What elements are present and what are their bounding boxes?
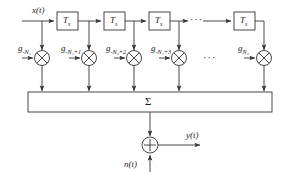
coef-1-sub: -N₁ (23, 48, 31, 55)
block-diagram: x(t) Ts Ts Ts Ts g-N₁ g-N₁+1 g-N₁+2 g-N₁… (0, 0, 285, 176)
coef-3-sub: -N₁+2 (111, 48, 127, 55)
noise-label: n(t) (124, 160, 137, 169)
coef-2-sub: -N₁+1 (66, 48, 82, 55)
summation-symbol: Σ (145, 96, 151, 107)
delay-3-sub: s (160, 21, 162, 27)
coefficient-label-2: g-N₁+1 (61, 44, 81, 55)
delay-block-1-label: Ts (63, 16, 70, 27)
coefficient-label-1: g-N₁ (18, 44, 31, 55)
delay-block-3-label: Ts (155, 16, 162, 27)
delay-2-sub: s (115, 21, 117, 27)
coefficient-label-4: g-N₁+3 (151, 44, 171, 55)
input-label: x(t) (32, 6, 45, 15)
coef-4-sub: -N₁+3 (156, 48, 172, 55)
ellipsis-multiplier-row: ··· (203, 52, 217, 63)
coefficient-label-3: g-N₁+2 (106, 44, 126, 55)
ellipsis-top-row: ··· (190, 14, 204, 25)
delay-1-sub: s (68, 21, 70, 27)
delay-block-2-label: Ts (110, 16, 117, 27)
coefficient-label-5: gN₂ (238, 44, 249, 55)
delay-4-sub: s (245, 21, 247, 27)
output-label: y(t) (186, 131, 199, 140)
delay-block-4-label: Ts (240, 16, 247, 27)
coef-5-sub: N₂ (243, 48, 249, 55)
